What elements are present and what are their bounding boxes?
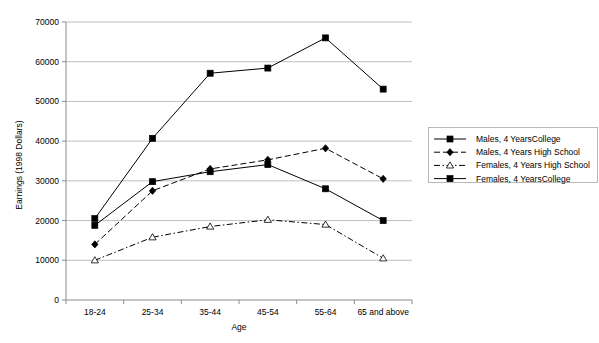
x-tick-label: 18-24 xyxy=(84,307,106,317)
data-point-marker xyxy=(380,175,386,182)
y-axis xyxy=(62,22,66,300)
x-tick-labels: 18-2425-3435-4445-5455-6465 and above xyxy=(84,307,409,317)
x-tick-label: 45-54 xyxy=(257,307,279,317)
data-point-marker xyxy=(92,222,98,228)
y-tick-label: 50000 xyxy=(35,96,59,106)
data-point-marker xyxy=(264,216,271,222)
series-0 xyxy=(92,162,386,229)
data-point-marker xyxy=(380,218,386,224)
x-tick-label: 35-44 xyxy=(199,307,221,317)
series-line xyxy=(95,220,383,261)
y-tick-label: 40000 xyxy=(35,136,59,146)
data-point-marker xyxy=(447,176,453,182)
data-point-marker xyxy=(92,216,98,222)
x-axis xyxy=(66,300,412,304)
y-tick-label: 30000 xyxy=(35,176,59,186)
series-1 xyxy=(92,145,387,248)
data-point-marker xyxy=(323,35,329,41)
data-point-marker xyxy=(380,86,386,92)
series-line xyxy=(95,165,383,226)
legend-label: Females, 4 Years High School xyxy=(476,160,590,170)
data-series xyxy=(91,35,387,263)
x-tick-label: 25-34 xyxy=(142,307,164,317)
legend-label: Females, 4 YearsCollege xyxy=(476,174,571,184)
y-tick-label: 70000 xyxy=(35,17,59,27)
legend-label: Males, 4 Years High School xyxy=(476,147,580,157)
x-tick-marks xyxy=(66,300,412,304)
data-point-marker xyxy=(447,149,453,156)
series-2 xyxy=(91,216,387,263)
y-tick-label: 10000 xyxy=(35,255,59,265)
data-point-marker xyxy=(380,255,387,261)
data-point-marker xyxy=(150,179,156,185)
y-tick-marks xyxy=(62,22,66,300)
data-point-marker xyxy=(265,65,271,71)
y-tick-label: 0 xyxy=(54,295,59,305)
data-point-marker xyxy=(323,186,329,192)
y-tick-label: 20000 xyxy=(35,216,59,226)
gridlines xyxy=(66,22,412,260)
data-point-marker xyxy=(322,145,328,152)
earnings-by-age-line-chart: 010000200003000040000500006000070000 18-… xyxy=(0,0,599,343)
series-line xyxy=(95,38,383,219)
legend-label: Males, 4 YearsCollege xyxy=(476,134,561,144)
data-point-marker xyxy=(150,135,156,141)
chart-container: 010000200003000040000500006000070000 18-… xyxy=(0,0,599,343)
legend: Males, 4 YearsCollegeMales, 4 Years High… xyxy=(429,128,598,184)
data-point-marker xyxy=(447,136,453,142)
y-tick-labels: 010000200003000040000500006000070000 xyxy=(35,17,59,305)
data-point-marker xyxy=(207,223,214,229)
legend-items: Males, 4 YearsCollegeMales, 4 Years High… xyxy=(434,134,590,184)
data-point-marker xyxy=(207,70,213,76)
x-axis-title: Age xyxy=(231,322,246,332)
x-tick-label: 65 and above xyxy=(357,307,409,317)
y-tick-label: 60000 xyxy=(35,57,59,67)
x-tick-label: 55-64 xyxy=(315,307,337,317)
y-axis-title: Earnings (1998 Dollars) xyxy=(14,120,24,209)
